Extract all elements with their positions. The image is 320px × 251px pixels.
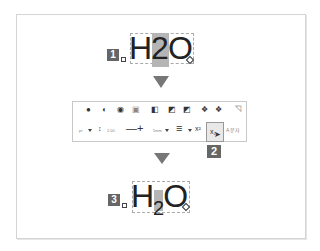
resize-handle [121,57,126,62]
shape-effects-icon[interactable]: ◉ [117,105,124,115]
formula-after: H2O [131,180,187,212]
line-width-dropdown[interactable]: 5mm [153,128,162,134]
cursor-pointer-icon: ➤ [214,130,221,140]
resize-handle [122,203,127,208]
align-left-icon[interactable]: ❖ [201,105,208,115]
chevron-down-icon[interactable] [188,129,192,132]
formula-char-h: H [129,30,151,66]
align-center-icon[interactable]: ❖ [215,105,222,115]
down-arrow-icon [153,76,169,88]
unit-dropdown[interactable]: pt [79,128,82,134]
formula-before: H2O [129,32,192,64]
subscript-button[interactable]: x₂ ➤ [206,122,224,142]
spacing-icon: ↕ [98,124,102,134]
shape-fill-icon[interactable]: ● [86,105,91,115]
step-badge-2: 2 [207,145,221,158]
edit-icon[interactable]: ◹ [235,104,241,114]
spacing-value[interactable]: 2.00 [107,128,115,134]
shape-outline-icon[interactable]: ◐ [102,105,107,115]
line-style-icon[interactable]: ≡ [176,123,182,133]
line-plus-icon[interactable]: —+ [126,123,143,133]
character-format-button[interactable]: A 문자 [226,127,240,133]
down-arrow-icon [154,153,170,164]
bring-forward-icon[interactable]: ◧ [151,105,159,115]
chevron-down-icon[interactable] [88,129,92,132]
formula-char-h: H [131,178,153,214]
formula-char-2: 2 [151,30,168,66]
group-icon[interactable]: ◩ [183,105,191,115]
superscript-icon[interactable]: x² [195,124,201,134]
step-badge-1: 1 [107,49,119,61]
step-badge-3: 3 [108,194,120,206]
formula-subscript-2: 2 [153,197,163,219]
send-backward-icon[interactable]: ◩ [168,105,176,115]
chevron-down-icon[interactable] [165,129,169,132]
text-box-icon[interactable]: ▣ [132,105,140,115]
ribbon-toolbar: ● ◐ ◉ ▣ ◧ ◩ ◩ ❖ ❖ ◹ pt ↕ 2.00 —+ 5mm ≡ x… [72,101,247,142]
